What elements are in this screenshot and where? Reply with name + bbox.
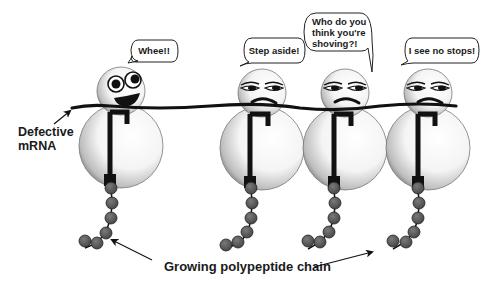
ribosome-3 [303, 69, 387, 190]
speech-text: Step aside! [249, 45, 300, 56]
speech-bubble-3: Who do you think you're shoving?! [304, 13, 373, 72]
large-subunit [220, 106, 304, 190]
speech-bubble-4: I see no stops! [401, 38, 479, 65]
chain-label: Growing polypeptide chain [164, 259, 331, 274]
speech-text: shoving?! [312, 38, 357, 49]
chain-arrow-left-icon [112, 240, 152, 260]
ribosome-4 [386, 69, 470, 190]
polypeptide-chain-4 [387, 182, 425, 249]
small-subunit-head [238, 69, 286, 117]
speech-bubble-2: Step aside! [240, 38, 305, 66]
small-subunit-head [404, 69, 452, 117]
mrna-arrow-icon [54, 111, 70, 124]
speech-bubble-1: Whee!! [128, 40, 178, 63]
ribosome-2 [220, 69, 304, 190]
speech-text: Who do you [312, 16, 367, 27]
polypeptide-chain-3 [302, 182, 341, 249]
ribosome-traffic-diagram: Whee!! Step aside! Who do you think you'… [0, 0, 490, 287]
polypeptide-chain-2 [220, 182, 258, 251]
polypeptide-chain-1 [79, 182, 118, 249]
mrna-label: Defective [18, 125, 74, 139]
speech-text: I see no stops! [409, 45, 476, 56]
speech-text: Whee!! [138, 45, 170, 56]
speech-text: think you're [312, 27, 365, 38]
large-subunit [303, 106, 387, 190]
mrna-label: mRNA [18, 139, 56, 153]
large-subunit [79, 104, 163, 188]
large-subunit [386, 106, 470, 190]
ribosome-1 [79, 67, 163, 188]
